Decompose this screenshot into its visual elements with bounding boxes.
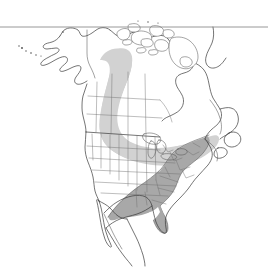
arctic-island-c — [141, 39, 153, 47]
map-canvas — [0, 0, 268, 267]
arctic-islet-g — [149, 50, 158, 55]
aleutian-dot — [35, 54, 36, 55]
aleutian-dot — [21, 47, 23, 49]
southampton-island — [180, 57, 192, 67]
arctic-island-d — [155, 40, 169, 52]
banks-island — [117, 29, 130, 41]
arctic-island-e — [163, 30, 174, 38]
arctic-island-b — [128, 24, 140, 32]
arctic-islet-h — [123, 40, 132, 45]
island-dot — [62, 31, 64, 33]
aleutian-dot — [25, 50, 26, 51]
arctic-dot — [147, 21, 148, 22]
arctic-islet-f — [137, 48, 146, 53]
arctic-dot — [157, 22, 158, 23]
aleutian-dot — [30, 52, 32, 54]
aleutian-dot — [18, 45, 19, 46]
arctic-dot — [137, 20, 138, 21]
aleutian-dot — [40, 55, 41, 56]
range-map-figure — [0, 0, 268, 267]
